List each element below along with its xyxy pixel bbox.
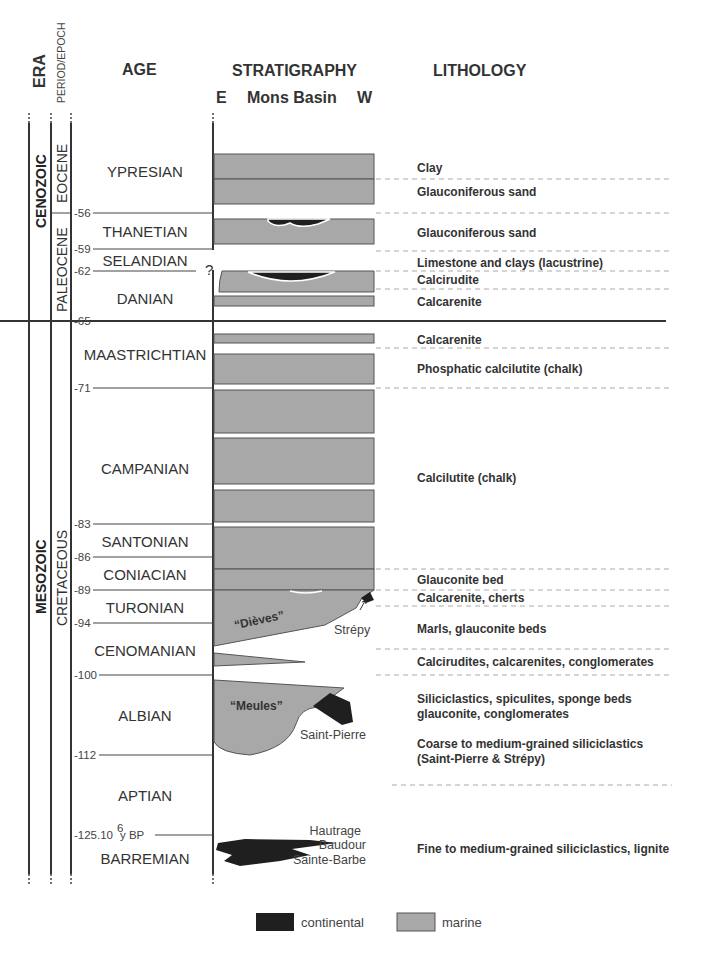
lithology-siliciclastics-1: Siliciclastics, spiculites, sponge beds	[417, 692, 632, 706]
age-thanetian: THANETIAN	[102, 223, 187, 240]
label-hautrage: Hautrage	[310, 824, 361, 838]
age-santonian: SANTONIAN	[101, 533, 188, 550]
age-maastrichtian: MAASTRICHTIAN	[84, 346, 207, 363]
legend-marine-label: marine	[442, 915, 482, 930]
tick-100: -100	[74, 669, 97, 681]
marine-units	[214, 154, 374, 755]
period-eocene: EOCENE	[54, 144, 70, 203]
header-period-epoch: PERIOD/EPOCH	[55, 22, 67, 103]
lithology-glauconite-bed: Glauconite bed	[417, 573, 504, 587]
lithology-coarse-1: Coarse to medium-grained siliciclastics	[417, 737, 643, 751]
lithology-phosphatic-calcilutite: Phosphatic calcilutite (chalk)	[417, 362, 582, 376]
tick-59: -59	[74, 243, 91, 255]
label-saint-pierre: Saint-Pierre	[300, 728, 366, 742]
svg-text:-125.10: -125.10	[74, 829, 113, 841]
header-strat-west: W	[357, 89, 373, 106]
era-cenozoic: CENOZOIC	[33, 154, 49, 228]
tick-83: -83	[74, 518, 91, 530]
header-age: AGE	[122, 61, 157, 78]
lithology-calcarenite-cherts: Calcarenite, cherts	[417, 591, 525, 605]
lithology-calcirudites: Calcirudites, calcarenites, conglomerate…	[417, 655, 654, 669]
lithology-glauconiferous-sand-1: Glauconiferous sand	[417, 185, 536, 199]
header-lithology: LITHOLOGY	[433, 62, 527, 79]
age-aptian: APTIAN	[118, 787, 172, 804]
period-cretaceous: CRETACEOUS	[54, 530, 70, 626]
age-cenomanian: CENOMANIAN	[94, 642, 196, 659]
lithology-coarse-2: (Saint-Pierre & Strépy)	[417, 752, 545, 766]
label-meules: “Meules”	[230, 699, 283, 713]
stratigraphic-chart: ERA PERIOD/EPOCH AGE STRATIGRAPHY E Mons…	[0, 0, 703, 956]
age-danian: DANIAN	[117, 290, 174, 307]
lithology-calcirudite: Calcirudite	[417, 273, 479, 287]
uncertain-mark: ?	[205, 261, 213, 278]
tick-71: -71	[74, 382, 91, 394]
age-coniacian: CONIACIAN	[103, 566, 186, 583]
lithology-calcilutite: Calcilutite (chalk)	[417, 471, 516, 485]
era-mesozoic: MESOZOIC	[33, 539, 49, 614]
lithology-glauconiferous-sand-2: Glauconiferous sand	[417, 226, 536, 240]
svg-text:y BP: y BP	[120, 829, 145, 841]
age-campanian: CAMPANIAN	[101, 460, 189, 477]
tick-125: -125.10 6 y BP	[74, 822, 145, 841]
age-selandian: SELANDIAN	[102, 252, 187, 269]
lithology-calcarenite-danian: Calcarenite	[417, 295, 482, 309]
tick-56: -56	[74, 207, 91, 219]
age-barremian: BARREMIAN	[100, 850, 189, 867]
tick-86: -86	[74, 551, 91, 563]
age-turonian: TURONIAN	[106, 599, 184, 616]
lithology-siliciclastics-2: glauconite, conglomerates	[417, 707, 569, 721]
legend-continental-swatch	[256, 913, 294, 931]
tick-62: -62	[74, 265, 91, 277]
lithology-clay: Clay	[417, 161, 443, 175]
lithology-limestone-clays: Limestone and clays (lacustrine)	[417, 256, 603, 270]
age-ypresian: YPRESIAN	[107, 163, 183, 180]
header-strat-basin: Mons Basin	[247, 89, 337, 106]
legend: continental marine	[256, 913, 482, 931]
label-sainte-barbe: Sainte-Barbe	[293, 853, 366, 867]
lithology-calcarenite-maastrichtian: Calcarenite	[417, 333, 482, 347]
legend-marine-swatch	[397, 913, 435, 931]
label-baudour: Baudour	[319, 838, 366, 852]
lithology-marls: Marls, glauconite beds	[417, 622, 547, 636]
tick-112: -112	[74, 749, 96, 761]
header-era: ERA	[31, 54, 48, 88]
period-paleocene: PALEOCENE	[54, 227, 70, 312]
lithology-fine: Fine to medium-grained siliciclastics, l…	[417, 842, 669, 856]
tick-65: -65	[74, 315, 91, 327]
tick-94: -94	[74, 617, 91, 629]
header-stratigraphy: STRATIGRAPHY	[232, 62, 357, 79]
label-strepy: Strépy	[334, 623, 371, 637]
header-strat-east: E	[216, 89, 227, 106]
tick-89: -89	[74, 584, 91, 596]
legend-continental-label: continental	[301, 915, 364, 930]
age-albian: ALBIAN	[118, 707, 171, 724]
